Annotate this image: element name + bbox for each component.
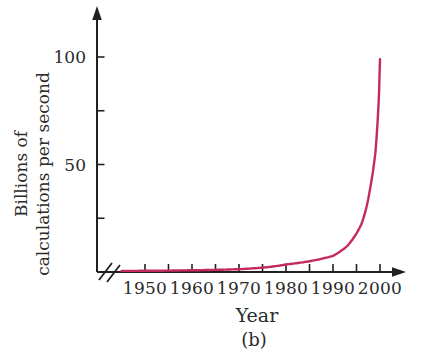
figure: 195019601970198019902000 50100 Billions … [0,0,422,356]
y-axis-title: Billions of calculations per second [10,64,54,284]
y-axis-arrowhead [92,6,102,20]
x-axis-title: Year [236,304,279,326]
plot-svg [0,0,422,356]
figure-caption: (b) [241,329,267,350]
data-curve [122,59,381,271]
y-axis-title-line1: Billions of [10,64,32,284]
x-axis-arrowhead [392,267,406,277]
y-axis-title-line2: calculations per second [32,64,54,284]
